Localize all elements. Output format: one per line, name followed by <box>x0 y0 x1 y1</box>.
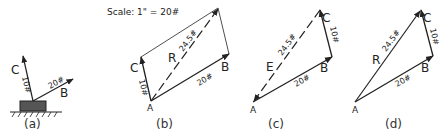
parallelogram-right <box>218 8 229 54</box>
magnitude-b: 20# <box>293 72 312 88</box>
block <box>20 101 46 111</box>
caption-d: (d) <box>385 117 402 131</box>
origin-a: A <box>250 105 257 115</box>
panel-a: C 10# B 20# (a) <box>10 56 73 131</box>
magnitude-b: 20# <box>195 71 214 88</box>
label-b: B <box>421 61 429 75</box>
origin-a: A <box>147 103 154 113</box>
panel-b: C 10# B 20# R 24.5# A (b) <box>130 8 229 131</box>
caption-a: (a) <box>24 117 41 131</box>
panel-c: C 10# B 20# E 24.5# A (c) <box>250 10 341 131</box>
label-b: B <box>320 61 328 75</box>
label-r: R <box>168 51 176 65</box>
label-b: B <box>60 86 68 100</box>
label-c: C <box>130 61 138 75</box>
caption-b: (b) <box>156 117 173 131</box>
label-c: C <box>11 63 19 77</box>
vector-b <box>151 54 229 101</box>
vector-diagram: Scale: 1" = 20# C 10# B 20# (a) C 10# B <box>0 0 445 134</box>
caption-c: (c) <box>268 117 284 131</box>
vector-e <box>254 10 320 101</box>
vector-r <box>355 11 420 102</box>
magnitude-c: 10# <box>137 78 150 97</box>
label-e: E <box>266 60 274 74</box>
magnitude-c: 10# <box>20 75 33 94</box>
origin-a: A <box>352 105 359 115</box>
label-c: C <box>322 11 330 25</box>
magnitude-c: 10# <box>328 25 341 44</box>
panel-d: C 10# B 20# R 24.5# A (d) <box>352 10 441 131</box>
label-c: C <box>423 11 431 25</box>
label-b: B <box>221 60 229 74</box>
label-r: R <box>372 53 380 67</box>
magnitude-b: 20# <box>394 72 413 88</box>
scale-label: Scale: 1" = 20# <box>107 7 179 17</box>
vector-r <box>151 9 218 101</box>
